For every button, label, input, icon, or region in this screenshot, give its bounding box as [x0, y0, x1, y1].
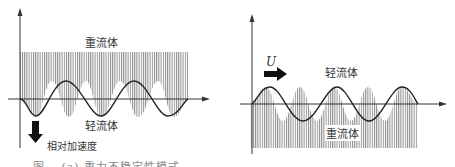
y-axis-arrow-icon — [250, 14, 255, 22]
accel-arrow-icon — [28, 134, 43, 143]
figure-caption: 图… (a) 重力不稳定性模式 — [33, 158, 180, 167]
right-heavy-fluid-label: 重流体 — [325, 125, 360, 141]
x-axis-arrow-icon — [202, 97, 210, 102]
x-axis-arrow-icon — [439, 102, 447, 107]
accel-arrow-shaft — [32, 121, 39, 135]
heavy-fluid-hatch — [20, 52, 188, 122]
y-axis-arrow-icon — [18, 8, 23, 16]
velocity-arrow-icon — [277, 67, 287, 81]
left-heavy-fluid-label: 重流体 — [85, 34, 118, 50]
right-light-fluid-label: 轻流体 — [325, 64, 358, 80]
accel-label: 相对加速度 — [47, 138, 97, 153]
velocity-arrow-shaft — [264, 71, 278, 77]
velocity-label: U — [266, 55, 276, 69]
left-light-fluid-label: 轻流体 — [85, 117, 118, 133]
